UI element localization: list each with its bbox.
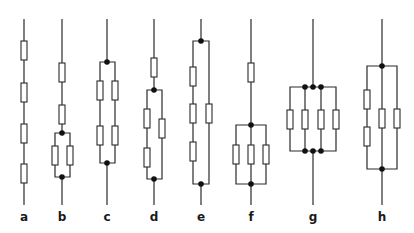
resistor [151,58,157,77]
resistor [21,164,27,183]
resistor [59,63,65,82]
resistor [67,146,73,165]
resistor [364,127,370,146]
panel-label-d: d [144,210,164,224]
resistor [21,83,27,102]
circuit-h [364,19,400,205]
junction-node [59,174,65,180]
junction-node [310,148,316,154]
resistor [318,110,324,129]
resistor [144,109,150,128]
resistor [190,142,196,161]
junction-node [248,122,254,128]
junction-node [198,181,204,187]
junction-node [318,148,324,154]
circuit-e [190,19,212,205]
circuit-b [52,19,73,205]
resistor [112,81,118,100]
resistor [287,110,293,129]
resistor [263,145,269,164]
resistor [59,105,65,124]
junction-node [310,84,316,90]
junction-node [248,181,254,187]
resistor [97,126,103,145]
junction-node [59,130,65,136]
resistor [190,67,196,86]
resistor [21,124,27,143]
junction-node [151,87,157,93]
junction-node [318,84,324,90]
circuit-c [97,19,118,205]
circuit-f [233,19,269,205]
circuit-g [287,19,339,205]
resistor [233,145,239,164]
resistor [21,41,27,60]
resistor [112,126,118,145]
junction-node [379,63,385,69]
panel-label-f: f [241,210,261,224]
panel-label-a: a [14,210,34,224]
junction-node [151,176,157,182]
junction-node [198,38,204,44]
junction-node [104,59,110,65]
resistor [52,146,58,165]
resistor [248,145,254,164]
panel-label-e: e [191,210,211,224]
resistor-diagrams [0,0,414,233]
junction-node [379,166,385,172]
junction-node [104,160,110,166]
panel-label-g: g [303,210,323,224]
resistor [190,104,196,123]
resistor [144,148,150,167]
panel-label-c: c [97,210,117,224]
junction-node [302,84,308,90]
junction-node [302,148,308,154]
resistor [97,81,103,100]
resistor [302,110,308,129]
resistor [333,110,339,129]
circuit-a [21,19,27,205]
resistor [159,119,165,138]
resistor [364,90,370,109]
panel-label-b: b [52,210,72,224]
resistor [248,63,254,82]
resistor [394,109,400,128]
panel-label-h: h [372,210,392,224]
circuit-d [144,19,165,205]
resistor [206,104,212,123]
resistor [379,109,385,128]
